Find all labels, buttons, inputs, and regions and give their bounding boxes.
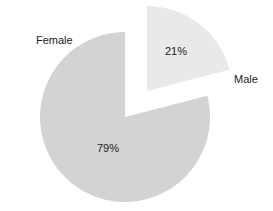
pie-slice-male: [147, 6, 229, 91]
value-label-female: 79%: [97, 142, 119, 154]
label-female: Female: [36, 34, 73, 46]
value-label-male: 21%: [165, 45, 187, 57]
pie-chart: Female Male 21% 79%: [0, 0, 273, 211]
label-male: Male: [234, 73, 258, 85]
